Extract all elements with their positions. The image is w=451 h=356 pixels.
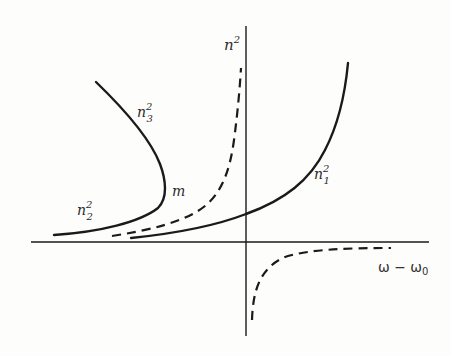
label-n3: n23 — [137, 101, 153, 124]
label-m: m — [172, 183, 185, 199]
x-axis-label: ω − ω0 — [378, 259, 428, 277]
curve-dashed-lower — [252, 248, 391, 320]
curve-dashed-upper — [112, 68, 241, 236]
curve-n1 — [131, 63, 348, 238]
label-n1: n21 — [314, 163, 330, 186]
y-axis-label: n2 — [224, 34, 240, 54]
dispersion-diagram: n2 ω − ω0 n23 n22 n21 m — [0, 0, 451, 356]
label-n2: n22 — [77, 199, 93, 222]
